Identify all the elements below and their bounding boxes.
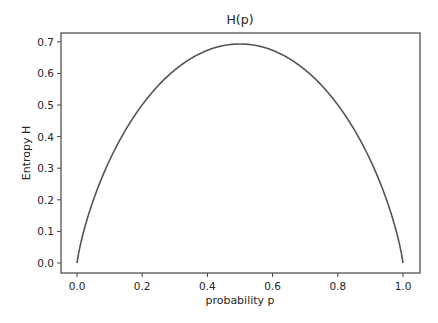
x-tick-label: 0.0 (69, 280, 86, 292)
y-tick-label: 0.7 (37, 36, 54, 48)
y-tick-label: 0.5 (37, 99, 54, 111)
x-axis-label: probability p (205, 294, 274, 307)
x-axis: 0.00.20.40.60.81.0 (69, 273, 412, 292)
y-tick-label: 0.3 (37, 162, 54, 174)
y-tick-label: 0.1 (37, 225, 54, 237)
y-tick-label: 0.0 (37, 257, 54, 269)
x-tick-label: 0.8 (329, 280, 346, 292)
x-tick-label: 0.6 (264, 280, 281, 292)
y-axis-label: Entropy H (20, 126, 33, 181)
y-axis: 0.00.10.20.30.40.50.60.7 (37, 36, 61, 269)
y-tick-label: 0.2 (37, 194, 54, 206)
entropy-line (77, 44, 403, 263)
x-tick-label: 0.4 (199, 280, 216, 292)
x-tick-label: 1.0 (395, 280, 412, 292)
x-tick-label: 0.2 (134, 280, 151, 292)
plot-area (77, 44, 403, 263)
chart: H(p) 0.00.20.40.60.81.0 0.00.10.20.30.40… (0, 0, 438, 323)
y-tick-label: 0.6 (37, 67, 54, 79)
y-tick-label: 0.4 (37, 131, 54, 143)
chart-title: H(p) (226, 12, 253, 27)
